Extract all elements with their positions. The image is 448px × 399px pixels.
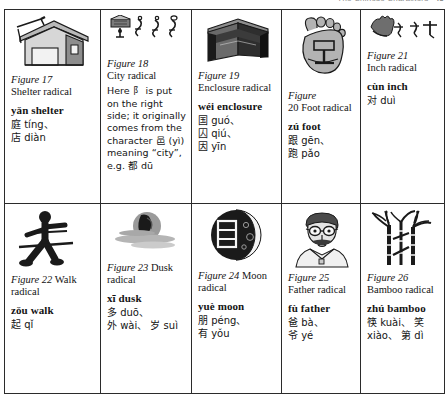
figure-caption: Bamboo radical: [367, 284, 434, 295]
hand-inch-measure-illustration: [367, 15, 439, 47]
figure-caption: Enclosure radical: [198, 82, 271, 93]
example-word: 有 yǒu: [198, 327, 276, 340]
example-word: 多 duō、: [107, 306, 186, 319]
pinyin-gloss: yǎn shelter: [11, 104, 95, 117]
figure-number: Figure 18: [107, 58, 148, 69]
figure-label: Figure 21 Inch radical: [367, 50, 439, 73]
father-portrait-illustration: [288, 209, 355, 269]
table-cell-figure-18: Figure 18 City radical Here 阝 is put on …: [101, 10, 192, 204]
radicals-table: Figure 17 Shelter radical yǎn shelter 庭 …: [4, 9, 445, 394]
dusk-sunset-illustration: [107, 209, 186, 259]
pinyin-gloss: fù father: [288, 302, 355, 315]
figure-number: Figure 23: [107, 262, 148, 273]
example-word: 跟 gēn、: [288, 134, 355, 147]
figure-number: Figure 21: [367, 50, 408, 61]
example-word: 爸 bà、: [288, 316, 355, 329]
open-box-enclosure-illustration: [198, 15, 276, 67]
figure-number: Figure 22: [11, 274, 52, 285]
table-cell-figure-21: Figure 21 Inch radical cùn inch 对 duì: [361, 10, 445, 204]
figure-note: Here 阝 is put on the right side; it orig…: [107, 85, 186, 172]
figure-caption: City radical: [107, 70, 156, 81]
figure-label: Figure 17 Shelter radical: [11, 74, 95, 97]
figure-label: Figure 20 Foot radical: [288, 90, 355, 113]
example-word: xiào、 第 dì: [367, 329, 439, 342]
figure-number: Figure 17: [11, 74, 52, 85]
table-cell-figure-19: Figure 19 Enclosure radical wéi enclosur…: [192, 10, 282, 204]
pinyin-gloss: xī dusk: [107, 292, 186, 305]
pinyin-gloss: zhú bamboo: [367, 302, 439, 315]
table-cell-figure-24: Figure 24 Moon radical yuè moon 朋 péng、 …: [192, 204, 282, 394]
table-cell-figure-26: Figure 26 Bamboo radical zhú bamboo 筷 ku…: [361, 204, 445, 394]
figure-caption: Father radical: [288, 284, 346, 295]
table-cell-figure-22: Figure 22 Walk radical zǒu walk 起 qǐ: [5, 204, 101, 394]
example-word: 因 yīn: [198, 140, 276, 153]
example-word: 朋 péng、: [198, 314, 276, 327]
figure-label: Figure 22 Walk radical: [11, 274, 95, 297]
figure-caption: Inch radical: [367, 62, 417, 73]
example-word: 庭 tíng、: [11, 118, 95, 131]
bamboo-stalks-illustration: [367, 209, 439, 269]
pinyin-gloss: wéi enclosure: [198, 100, 276, 113]
table-cell-figure-23: Figure 23 Dusk radical xī dusk 多 duō、 外 …: [101, 204, 192, 394]
figure-label: Figure 25 Father radical: [288, 272, 355, 295]
crescent-moon-illustration: [198, 209, 276, 267]
example-word: 国 guó、: [198, 114, 276, 127]
table-cell-figure-17: Figure 17 Shelter radical yǎn shelter 庭 …: [5, 10, 101, 204]
foot-sole-illustration: [288, 15, 355, 87]
example-word: 囚 qiú、: [198, 127, 276, 140]
walking-figure-illustration: [11, 209, 95, 271]
example-word: 筷 kuài、 笑: [367, 316, 439, 329]
running-head-title: The Chinese Characters: [338, 0, 429, 3]
figure-label: Figure 26 Bamboo radical: [367, 272, 439, 295]
pinyin-gloss: zú foot: [288, 120, 355, 133]
table-row: Figure 17 Shelter radical yǎn shelter 庭 …: [5, 10, 445, 204]
figure-number: Figure: [288, 90, 316, 101]
running-head-page-number: 43: [435, 0, 444, 3]
figure-number: Figure 26: [367, 272, 408, 283]
pinyin-gloss: cùn inch: [367, 80, 439, 93]
figure-number: Figure 25: [288, 272, 329, 283]
figure-label: Figure 24 Moon radical: [198, 270, 276, 293]
figure-label: Figure 23 Dusk radical: [107, 262, 186, 285]
example-word: 爷 yé: [288, 329, 355, 342]
example-word: 店 diàn: [11, 131, 95, 144]
figure-number: Figure 24: [198, 270, 239, 281]
figure-label: Figure 19 Enclosure radical: [198, 70, 276, 93]
table-cell-figure-20: Figure 20 Foot radical zú foot 跟 gēn、 跑 …: [282, 10, 361, 204]
example-word: 对 duì: [367, 94, 439, 107]
house-shelter-illustration: [11, 15, 95, 71]
figure-label: Figure 18 City radical: [107, 58, 186, 81]
pinyin-gloss: zǒu walk: [11, 304, 95, 317]
example-word: 起 qǐ: [11, 318, 95, 331]
figure-caption: 20 Foot radical: [288, 102, 352, 113]
city-gate-seal-script-illustration: [107, 15, 186, 55]
running-head: The Chinese Characters43: [0, 0, 448, 3]
textbook-page: The Chinese Characters43: [0, 0, 448, 399]
example-word: 外 wài、 岁 suì: [107, 319, 186, 332]
table-row: Figure 22 Walk radical zǒu walk 起 qǐ: [5, 204, 445, 394]
table-cell-figure-25: Figure 25 Father radical fù father 爸 bà、…: [282, 204, 361, 394]
example-word: 跑 pǎo: [288, 147, 355, 160]
figure-number: Figure 19: [198, 70, 239, 81]
figure-caption: Shelter radical: [11, 86, 72, 97]
pinyin-gloss: yuè moon: [198, 300, 276, 313]
